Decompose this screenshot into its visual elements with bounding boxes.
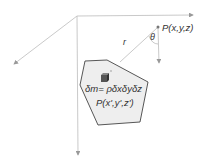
gravitation-diagram: P(x,y,z) θ r δm= ρδxδyδz P(x',y',z') xyxy=(0,0,206,163)
point-p xyxy=(157,26,160,29)
point-label: P(x,y,z) xyxy=(162,22,194,33)
distance-label: r xyxy=(123,37,127,47)
z-axis xyxy=(77,16,78,155)
angle-label: θ xyxy=(150,32,155,42)
x-axis xyxy=(77,15,193,16)
source-point-label: P(x',y',z') xyxy=(96,97,134,108)
gravity-direction-arrow xyxy=(158,28,159,63)
y-axis xyxy=(14,16,77,64)
mass-element-label: δm= ρδxδyδz xyxy=(85,83,142,94)
